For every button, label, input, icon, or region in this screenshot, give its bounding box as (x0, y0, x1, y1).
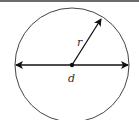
diameter-label: d (68, 72, 75, 85)
center-point (70, 63, 74, 67)
radius-label: r (77, 36, 83, 49)
circle-diagram: r d (0, 0, 139, 120)
